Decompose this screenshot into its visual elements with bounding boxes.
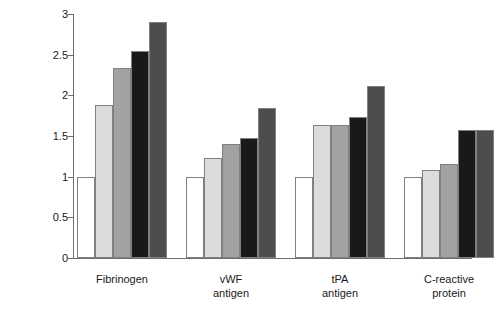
bar xyxy=(422,170,440,258)
x-axis-line xyxy=(73,258,472,259)
bar xyxy=(222,144,240,258)
bar xyxy=(113,68,131,258)
bar xyxy=(240,138,258,258)
y-axis-tick xyxy=(68,14,73,15)
y-axis-tick-label: 2.5 xyxy=(34,49,68,61)
y-axis-tick-label: 1 xyxy=(34,171,68,183)
y-axis-tick-label: 0 xyxy=(34,252,68,264)
y-axis-tick xyxy=(68,95,73,96)
bar xyxy=(349,117,367,258)
y-axis-tick-label: 3 xyxy=(34,8,68,20)
bar xyxy=(404,177,422,258)
x-axis-group-label: vWFantigen xyxy=(171,272,291,300)
bar xyxy=(458,130,476,258)
bar xyxy=(258,108,276,258)
x-axis-group-label-line2: antigen xyxy=(171,286,291,300)
y-axis-tick-label: 2 xyxy=(34,89,68,101)
x-axis-group-label-line1: C-reactive xyxy=(424,273,474,285)
x-axis-group-label-line2: protein xyxy=(389,286,498,300)
bar xyxy=(204,158,222,258)
x-axis-group-label: Fibrinogen xyxy=(62,272,182,286)
y-axis-tick xyxy=(68,136,73,137)
bar xyxy=(295,177,313,258)
x-axis-group-label: C-reactiveprotein xyxy=(389,272,498,300)
y-axis-tick-label: 0.5 xyxy=(34,211,68,223)
y-axis-tick xyxy=(68,55,73,56)
bar xyxy=(131,51,149,258)
y-axis-tick xyxy=(68,177,73,178)
y-axis-tick-label: 1.5 xyxy=(34,130,68,142)
y-axis-tick xyxy=(68,258,73,259)
bar xyxy=(440,164,458,258)
y-axis-label: Relative risk xyxy=(0,0,24,309)
y-axis-line xyxy=(73,14,74,259)
bar xyxy=(313,125,331,258)
bar xyxy=(95,105,113,258)
bar xyxy=(367,86,385,258)
x-axis-group-label-line1: Fibrinogen xyxy=(96,273,148,285)
x-axis-group-label-line1: vWF xyxy=(220,273,243,285)
bar xyxy=(77,177,95,258)
bar xyxy=(476,130,494,258)
x-axis-group-label-line2: antigen xyxy=(280,286,400,300)
bar xyxy=(331,125,349,258)
bar xyxy=(149,22,167,258)
x-axis-group-label-line1: tPA xyxy=(332,273,349,285)
y-axis-tick xyxy=(68,217,73,218)
x-axis-group-label: tPAantigen xyxy=(280,272,400,300)
bar xyxy=(186,177,204,258)
